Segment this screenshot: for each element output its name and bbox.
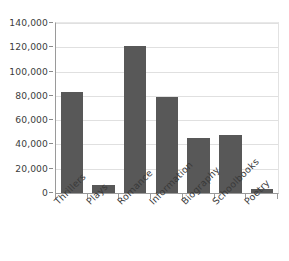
y-tick-label: 140,000	[9, 17, 48, 28]
y-tick-mark	[49, 46, 53, 47]
bar-slot	[56, 23, 88, 193]
y-tick-label: 80,000	[15, 89, 48, 100]
y-tick-mark	[49, 71, 53, 72]
bar-chart: 140,000120,000100,00080,00060,00040,0002…	[0, 0, 289, 261]
y-tick-mark	[49, 119, 53, 120]
y-tick-mark	[49, 143, 53, 144]
y-tick-mark	[49, 168, 53, 169]
bar-slot	[88, 23, 120, 193]
y-tick-label: 20,000	[15, 162, 48, 173]
x-axis-labels: ThrillersPlaysRomanceInformationBiograph…	[55, 199, 278, 261]
y-tick-mark	[49, 95, 53, 96]
y-tick-label: 60,000	[15, 114, 48, 125]
y-tick-label: 120,000	[9, 41, 48, 52]
y-tick-mark	[49, 22, 53, 23]
y-tick-mark	[49, 192, 53, 193]
y-tick-label: 100,000	[9, 65, 48, 76]
y-axis: 140,000120,000100,00080,00060,00040,0002…	[0, 0, 48, 261]
y-tick-label: 40,000	[15, 138, 48, 149]
y-tick-label: 0	[42, 187, 48, 198]
